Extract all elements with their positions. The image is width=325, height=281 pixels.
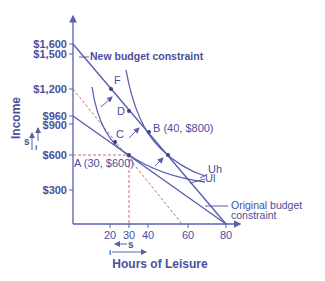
- s-label-x: s: [128, 239, 134, 250]
- x-axis-label: Hours of Leisure: [112, 257, 208, 271]
- x-tick-80: 80: [220, 229, 232, 241]
- i-label-x: i: [109, 248, 111, 257]
- label-orig-budget-2: constraint: [231, 209, 277, 221]
- label-a: A (30, $600): [74, 157, 134, 169]
- new-budget-line: [73, 44, 226, 224]
- point-c: [113, 140, 117, 144]
- shift-arrow-1: [101, 97, 112, 107]
- label-d: D: [117, 105, 125, 117]
- y-tick-1200: $1,200: [33, 83, 67, 95]
- x-tick-labels: 20 30 40 60 80: [104, 229, 232, 241]
- label-f: F: [114, 74, 121, 86]
- y-tick-300: $300: [43, 184, 67, 196]
- i-label-y: i: [35, 143, 37, 152]
- y-axis-label: Income: [9, 97, 23, 139]
- shift-arrow-2: [129, 128, 139, 138]
- x-tick-40: 40: [142, 229, 154, 241]
- y-tick-900: $900: [43, 119, 67, 131]
- point-b: [147, 130, 151, 134]
- s-label-y: s: [24, 136, 30, 147]
- x-tick-60: 60: [182, 229, 194, 241]
- point-tangent: [166, 153, 170, 157]
- shift-arrow-3: [155, 158, 163, 166]
- y-tick-labels: $1,600 $1,500 $1,200 $960 $900 $600 $300: [33, 38, 67, 196]
- point-d: [127, 109, 131, 113]
- y-tick-1500: $1,500: [33, 48, 67, 60]
- label-new-budget: New budget constraint: [90, 50, 204, 62]
- point-f: [109, 87, 113, 91]
- label-b: B (40, $800): [153, 122, 214, 134]
- label-ul: Ul: [205, 172, 215, 184]
- chart: $1,600 $1,500 $1,200 $960 $900 $600 $300…: [0, 0, 325, 281]
- label-c: C: [116, 128, 124, 140]
- y-tick-600: $600: [43, 149, 67, 161]
- x-tick-20: 20: [104, 229, 116, 241]
